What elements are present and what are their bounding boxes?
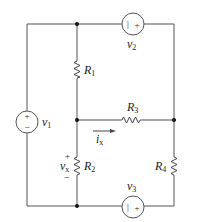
- source-v2: | +: [122, 13, 144, 35]
- label-r2: R2: [83, 159, 95, 174]
- source-v3: | +: [122, 196, 144, 218]
- circuit-diagram: + − v1 | + v2 | + v3 R1 R2 R3 R4 ix + vx…: [0, 0, 200, 222]
- resistor-r4: [171, 157, 177, 175]
- svg-text:|: |: [127, 202, 129, 212]
- wires: [27, 24, 174, 206]
- nodes: [75, 22, 176, 208]
- resistor-r2: [74, 157, 80, 175]
- svg-text:+: +: [134, 203, 139, 213]
- resistor-r1: [74, 61, 80, 78]
- label-v3: v3: [127, 179, 136, 194]
- label-v2: v2: [127, 37, 136, 52]
- label-ix: ix: [96, 132, 103, 147]
- label-r4: R4: [154, 159, 166, 174]
- svg-text:−: −: [24, 122, 29, 132]
- vx-minus: −: [64, 172, 70, 183]
- label-r1: R1: [83, 63, 95, 78]
- vx-plus: +: [65, 151, 70, 161]
- label-v1: v1: [42, 115, 51, 130]
- svg-text:+: +: [24, 111, 29, 121]
- svg-text:|: |: [127, 19, 129, 29]
- svg-text:+: +: [134, 20, 139, 30]
- label-r3: R3: [126, 100, 138, 115]
- resistor-r3: [122, 117, 140, 123]
- source-v1: + −: [16, 111, 38, 133]
